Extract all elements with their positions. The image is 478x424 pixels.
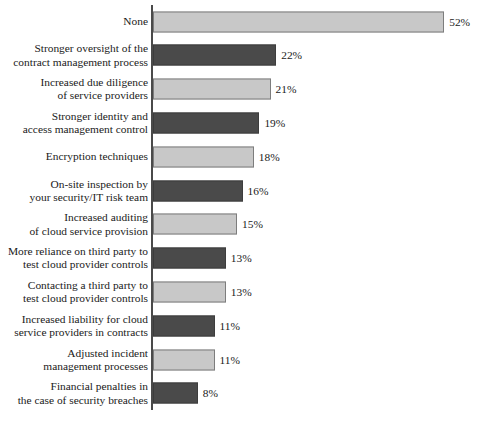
bar-value-label: 11% xyxy=(220,319,240,332)
category-label: Contacting a third party to test cloud p… xyxy=(4,279,148,305)
bar xyxy=(153,315,215,336)
bar-value-label: 18% xyxy=(259,150,280,163)
bar-row: Adjusted incident management processes11… xyxy=(0,343,478,376)
bar-row: Encryption techniques18% xyxy=(0,140,478,173)
bar xyxy=(153,79,271,100)
bar-row: Financial penalties in the case of secur… xyxy=(0,377,478,410)
bar-value-label: 13% xyxy=(231,252,252,265)
bar-value-label: 21% xyxy=(276,83,297,96)
bar xyxy=(153,180,243,201)
bar-value-label: 52% xyxy=(449,15,470,28)
bar-row: Increased auditing of cloud service prov… xyxy=(0,208,478,241)
category-label: Adjusted incident management processes xyxy=(4,346,148,372)
bar xyxy=(153,112,259,133)
bar-row: More reliance on third party to test clo… xyxy=(0,242,478,275)
category-label: Increased auditing of cloud service prov… xyxy=(4,211,148,237)
bar-row: Stronger oversight of the contract manag… xyxy=(0,39,478,72)
bar xyxy=(153,383,198,404)
bar-row: Stronger identity and access management … xyxy=(0,106,478,139)
bar-row: On-site inspection by your security/IT r… xyxy=(0,174,478,207)
bar-row: None52% xyxy=(0,5,478,38)
category-label: Increased liability for cloud service pr… xyxy=(4,312,148,338)
bar-value-label: 11% xyxy=(220,353,240,366)
bar xyxy=(153,146,254,167)
bar-value-label: 13% xyxy=(231,285,252,298)
bar xyxy=(153,248,226,269)
category-label: Financial penalties in the case of secur… xyxy=(4,380,148,406)
category-label: Increased due diligence of service provi… xyxy=(4,76,148,102)
bar xyxy=(153,11,444,32)
bar-value-label: 22% xyxy=(281,49,302,62)
category-label: Stronger oversight of the contract manag… xyxy=(4,42,148,68)
bar xyxy=(153,349,215,370)
bar-value-label: 16% xyxy=(248,184,269,197)
bar-value-label: 8% xyxy=(203,387,218,400)
category-label: More reliance on third party to test clo… xyxy=(4,245,148,271)
bar-row: Contacting a third party to test cloud p… xyxy=(0,275,478,308)
bar xyxy=(153,214,237,235)
category-label: Stronger identity and access management … xyxy=(4,110,148,136)
bar xyxy=(153,45,276,66)
bar-row: Increased due diligence of service provi… xyxy=(0,73,478,106)
bar-row: Increased liability for cloud service pr… xyxy=(0,309,478,342)
bar-value-label: 15% xyxy=(242,218,263,231)
category-label: None xyxy=(4,15,148,28)
bar-rows: None52%Stronger oversight of the contrac… xyxy=(0,0,478,424)
category-label: Encryption techniques xyxy=(4,150,148,163)
bar-value-label: 19% xyxy=(264,116,285,129)
bar-chart: None52%Stronger oversight of the contrac… xyxy=(0,0,478,424)
bar xyxy=(153,281,226,302)
category-label: On-site inspection by your security/IT r… xyxy=(4,177,148,203)
